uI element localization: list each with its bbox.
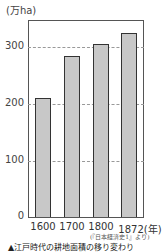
y-axis-unit: (万ha) (6, 2, 36, 17)
y-tick-200: 200 (0, 97, 24, 108)
bar-1800 (93, 44, 109, 217)
y-tick-300: 300 (0, 40, 24, 51)
bar-1872 (121, 33, 137, 217)
chart-caption: ▲江戸時代の耕地面積の移り変わり (8, 241, 134, 252)
baseline (28, 217, 144, 218)
source-note: (『日本経済史1』より) (90, 232, 150, 241)
x-tick-1800: 1800 (81, 221, 121, 232)
bar-1600 (35, 98, 51, 217)
bar-1700 (64, 56, 80, 217)
y-tick-0: 0 (0, 210, 24, 221)
y-tick-100: 100 (0, 154, 24, 165)
